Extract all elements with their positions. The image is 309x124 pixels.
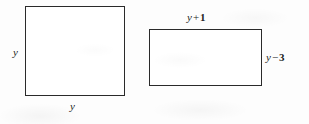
rectangle-right-side-operator: − <box>271 51 279 63</box>
square-bottom-side-operator <box>75 100 77 112</box>
square-bottom-side-label: y <box>70 101 77 112</box>
rectangle-top-side-operator: + <box>192 11 200 23</box>
rectangle-right-side-number: 3 <box>279 51 285 63</box>
square-left-side-label: y <box>13 47 20 58</box>
square-left-side-operator <box>18 46 20 58</box>
rectangle-top-side-label: y+1 <box>187 12 206 23</box>
square-shape <box>25 6 125 96</box>
geometry-figure: y y y+1 y−3 <box>0 0 309 124</box>
rectangle-shape <box>149 29 262 86</box>
rectangle-top-side-number: 1 <box>200 11 206 23</box>
rectangle-right-side-label: y−3 <box>266 52 285 63</box>
